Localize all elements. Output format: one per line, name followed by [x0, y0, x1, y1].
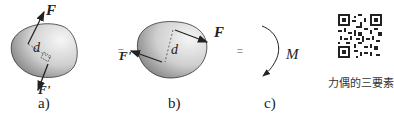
force-f-prime-label-b: F'	[119, 48, 131, 64]
figure-b-body	[131, 22, 207, 78]
force-f-label-b: F	[214, 24, 224, 41]
qr-code[interactable]	[338, 14, 382, 58]
figure-label-c: c)	[264, 95, 276, 112]
distance-d-label-b: d	[171, 42, 178, 58]
equals-sign-2: =	[237, 46, 243, 57]
figure-label-b: b)	[168, 95, 181, 112]
moment-m-label: M	[286, 46, 299, 63]
qr-caption: 力偶的三要素	[328, 74, 394, 90]
distance-d-label-a: d	[33, 40, 40, 56]
figure-a-body	[11, 12, 77, 90]
figure-label-a: a)	[38, 95, 50, 112]
figure-c-moment	[262, 26, 279, 76]
force-f-label-a: F	[46, 2, 56, 19]
